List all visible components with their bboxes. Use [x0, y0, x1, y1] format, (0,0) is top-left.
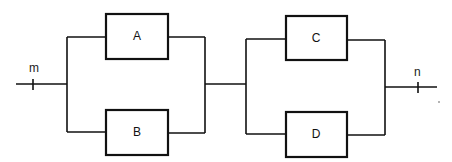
output-terminal-label: n	[414, 65, 421, 79]
block-D-label: D	[312, 127, 321, 141]
block-D: D	[286, 112, 347, 157]
block-B: B	[106, 110, 168, 155]
block-A: A	[106, 14, 168, 59]
block-A-label: A	[133, 29, 141, 43]
block-C: C	[286, 16, 347, 60]
block-diagram: m A B C D n	[0, 0, 452, 162]
block-C-label: C	[312, 31, 321, 45]
block-B-label: B	[133, 125, 141, 139]
stray-dot	[438, 101, 440, 103]
input-terminal-label: m	[29, 61, 39, 75]
